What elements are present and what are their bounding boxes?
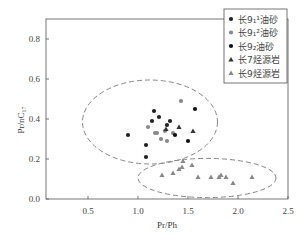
data-point bbox=[179, 164, 184, 169]
data-point bbox=[249, 174, 254, 179]
data-point bbox=[170, 170, 175, 175]
data-point bbox=[165, 123, 169, 127]
legend-marker-icon bbox=[229, 17, 233, 21]
y-tick-label: 0.8 bbox=[29, 34, 41, 44]
x-tick-label: 2.5 bbox=[282, 206, 294, 216]
legend-label: 长9₁¹油砂 bbox=[238, 14, 278, 25]
data-point bbox=[230, 180, 235, 185]
data-point bbox=[155, 131, 159, 135]
cluster-ellipse bbox=[138, 158, 276, 197]
x-tick-label: 1.0 bbox=[132, 206, 144, 216]
data-point bbox=[173, 133, 177, 137]
scatter-chart: 0.51.01.52.02.50.00.20.40.60.8Pr/PhPr/nC… bbox=[0, 0, 307, 237]
data-point bbox=[223, 174, 228, 179]
data-point bbox=[144, 143, 148, 147]
cluster-ellipse bbox=[83, 80, 218, 164]
cluster-ellipses bbox=[83, 80, 277, 198]
data-point bbox=[144, 155, 148, 159]
data-point bbox=[150, 119, 154, 123]
y-axis-label: Pr/nC17 bbox=[16, 106, 27, 133]
data-point bbox=[126, 133, 130, 137]
data-point bbox=[193, 107, 197, 111]
data-point bbox=[179, 99, 183, 103]
data-point bbox=[152, 109, 156, 113]
legend-label: 长9₂油砂 bbox=[238, 41, 274, 52]
data-point bbox=[165, 139, 169, 143]
legend-label: 长9₁²油砂 bbox=[238, 27, 278, 38]
x-axis-label: Pr/Ph bbox=[157, 220, 178, 230]
y-tick-label: 0.0 bbox=[29, 194, 41, 204]
data-point bbox=[168, 119, 172, 123]
data-point bbox=[163, 126, 168, 131]
data-point bbox=[190, 128, 195, 133]
legend-marker-icon bbox=[229, 44, 233, 48]
y-tick-label: 0.6 bbox=[29, 74, 41, 84]
data-points bbox=[126, 99, 255, 185]
legend: 长9₁¹油砂长9₁²油砂长9₂油砂长7烃源岩长9烃源岩 bbox=[224, 9, 287, 83]
legend-marker-icon bbox=[229, 30, 233, 34]
x-tick-label: 0.5 bbox=[82, 206, 94, 216]
data-point bbox=[195, 174, 200, 179]
legend-label: 长9烃源岩 bbox=[238, 68, 280, 79]
data-point bbox=[189, 162, 194, 167]
data-point bbox=[208, 174, 213, 179]
data-point bbox=[146, 125, 150, 129]
y-tick-label: 0.4 bbox=[29, 114, 41, 124]
data-point bbox=[159, 137, 163, 141]
legend-label: 长7烃源岩 bbox=[238, 54, 280, 65]
data-point bbox=[157, 115, 161, 119]
data-point bbox=[176, 124, 181, 129]
data-point bbox=[159, 172, 164, 177]
data-point bbox=[186, 139, 190, 143]
x-tick-label: 1.5 bbox=[182, 206, 194, 216]
x-tick-label: 2.0 bbox=[232, 206, 244, 216]
y-tick-label: 0.2 bbox=[29, 154, 40, 164]
